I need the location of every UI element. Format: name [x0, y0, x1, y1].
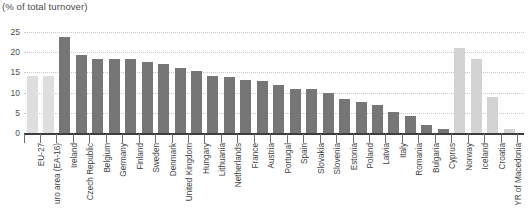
x-axis-tick: [336, 134, 337, 143]
x-axis-tick: [270, 134, 271, 143]
x-axis-tick: [172, 134, 173, 143]
y-axis-tick-label: 0: [2, 128, 20, 138]
x-axis-category-label: Romania: [414, 143, 425, 176]
bar-chart: (% of total turnover) 0510152025 EU-27ur…: [0, 0, 530, 208]
x-axis-category-label: Cyprus: [447, 143, 458, 169]
x-axis-category-label: Croatia: [497, 143, 508, 169]
bar: [224, 77, 235, 133]
x-axis-tick: [188, 134, 189, 143]
bar: [471, 59, 482, 133]
x-axis-tick: [122, 134, 123, 143]
x-axis-category-label: Germany: [118, 143, 129, 177]
bar: [240, 80, 251, 133]
x-axis-category-label: Austria: [266, 143, 277, 168]
x-axis-tick: [402, 134, 403, 143]
bar-series: [24, 32, 524, 133]
bar: [405, 116, 416, 133]
bar: [175, 68, 186, 133]
y-axis-tick-label: 20: [2, 47, 20, 57]
x-axis-tick: [418, 134, 419, 143]
x-axis-category-label: Netherlands: [233, 143, 244, 187]
bar: [306, 89, 317, 133]
bar: [273, 85, 284, 133]
bar: [43, 76, 54, 133]
bar: [109, 59, 120, 133]
x-axis-tick: [40, 134, 41, 143]
bar: [487, 97, 498, 133]
x-axis-tick: [451, 134, 452, 143]
x-axis-category-label: Italy: [398, 143, 409, 158]
x-axis-category-label: Estonia: [349, 143, 360, 170]
x-axis-tick: [501, 134, 502, 143]
bar: [339, 99, 350, 133]
x-axis-tick: [139, 134, 140, 143]
x-axis-category-label: Spain: [299, 143, 310, 164]
bar: [356, 102, 367, 133]
x-axis-category-label: YR of Macedonia: [513, 143, 524, 206]
x-axis-tick: [89, 134, 90, 143]
bar: [158, 64, 169, 133]
x-axis-category-label: Lithuania: [217, 143, 228, 176]
bar: [454, 48, 465, 133]
x-axis-tick: [73, 134, 74, 143]
x-axis-category-label: Ireland: [69, 143, 80, 168]
y-axis-labels: 0510152025: [0, 32, 20, 133]
x-axis-tick: [254, 134, 255, 143]
x-axis-tick: [56, 134, 57, 143]
x-axis-category-label: Slovakia: [316, 143, 327, 174]
bar: [372, 105, 383, 133]
x-axis-tick: [517, 134, 518, 143]
y-axis-tick-label: 10: [2, 88, 20, 98]
x-axis-category-label: Portugal: [283, 143, 294, 174]
x-axis-category-label: Czech Republic: [85, 143, 96, 200]
x-axis-category-labels: EU-27uro area (EA-16)IrelandCzech Republ…: [24, 143, 530, 208]
x-axis-tick: [237, 134, 238, 143]
bar: [92, 59, 103, 133]
bar: [438, 129, 449, 133]
x-axis-tick: [303, 134, 304, 143]
chart-title: (% of total turnover): [2, 1, 88, 12]
bar: [142, 62, 153, 133]
x-axis-category-label: Slovenia: [332, 143, 343, 174]
bar: [388, 112, 399, 133]
x-axis-category-label: Sweden: [151, 143, 162, 173]
y-axis-tick-label: 15: [2, 67, 20, 77]
x-axis-tick: [221, 134, 222, 143]
x-axis-category-label: Latvia: [381, 143, 392, 165]
x-axis-category-label: Poland: [365, 143, 376, 169]
x-axis-category-label: Iceland: [480, 143, 491, 169]
bar: [421, 125, 432, 133]
bar: [290, 89, 301, 133]
x-axis-category-label: Denmark: [168, 143, 179, 176]
x-axis-tick: [468, 134, 469, 143]
x-axis-category-label: United Kingdom: [184, 143, 195, 201]
bar: [257, 81, 268, 133]
bar: [125, 59, 136, 133]
bar: [207, 76, 218, 133]
x-axis-tick: [320, 134, 321, 143]
x-axis-category-label: Finland: [135, 143, 146, 170]
x-axis-category-label: uro area (EA-16): [52, 143, 63, 204]
bar: [59, 37, 70, 133]
x-axis-tick: [353, 134, 354, 143]
x-axis-category-label: France: [250, 143, 261, 168]
bar: [76, 55, 87, 133]
x-axis-ticks: [24, 134, 524, 143]
x-axis-category-label: Bulgaria: [431, 143, 442, 173]
x-axis-tick: [484, 134, 485, 143]
x-axis-category-label: Hungary: [201, 143, 212, 174]
x-axis-category-label: EU-27: [36, 143, 47, 166]
x-axis-category-label: Norway: [464, 143, 475, 171]
bar: [504, 129, 515, 133]
x-axis-tick: [204, 134, 205, 143]
x-axis-tick: [435, 134, 436, 143]
y-axis-tick-label: 25: [2, 27, 20, 37]
bar: [27, 76, 38, 133]
x-axis-category-label: Belgium: [102, 143, 113, 173]
x-axis-tick: [385, 134, 386, 143]
bar: [191, 71, 202, 133]
y-axis-tick-label: 5: [2, 108, 20, 118]
x-axis-tick: [24, 134, 25, 143]
bar: [323, 93, 334, 133]
